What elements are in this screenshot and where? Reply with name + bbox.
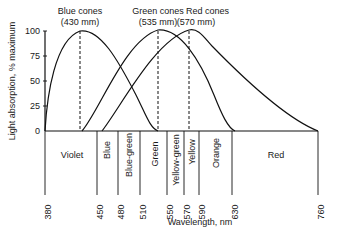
x-axis-label: Wavelength, nm — [168, 217, 233, 227]
band-blue-green: Blue-green — [124, 133, 134, 177]
y-tick-50: 50 — [30, 76, 40, 86]
y-tick-75: 75 — [30, 51, 40, 61]
blue-cones-label: Blue cones — [58, 6, 103, 16]
x-tick-480: 480 — [116, 204, 126, 219]
x-tick-510: 510 — [138, 204, 148, 219]
cone-absorption-chart: Blue cones (430 mm) Green cones (535 mm)… — [0, 0, 342, 230]
green-cones-peak: (535 mm) — [139, 17, 178, 27]
x-tick-450: 450 — [95, 204, 105, 219]
red-cones-curve — [102, 30, 318, 131]
green-cones-curve — [82, 30, 235, 131]
band-yellow-green: Yellow-green — [171, 134, 181, 186]
band-orange: Orange — [211, 138, 221, 168]
wavelength-ticks — [45, 131, 318, 195]
x-tick-380: 380 — [43, 204, 53, 219]
band-red: Red — [268, 150, 285, 160]
y-tick-25: 25 — [30, 101, 40, 111]
band-blue: Blue — [102, 141, 112, 159]
band-green: Green — [150, 141, 160, 166]
y-axis-label: Light absorption, % maximum — [7, 22, 17, 141]
band-yellow: Yellow — [187, 139, 197, 165]
blue-cones-peak: (430 mm) — [61, 17, 100, 27]
green-cones-label: Green cones — [132, 6, 184, 16]
blue-cones-curve — [45, 31, 158, 131]
x-tick-760: 760 — [316, 204, 326, 219]
band-violet: Violet — [61, 150, 84, 160]
red-cones-peak: (570 mm) — [177, 17, 216, 27]
red-cones-label: Red cones — [186, 6, 230, 16]
y-tick-0: 0 — [35, 126, 40, 136]
y-tick-100: 100 — [25, 26, 40, 36]
